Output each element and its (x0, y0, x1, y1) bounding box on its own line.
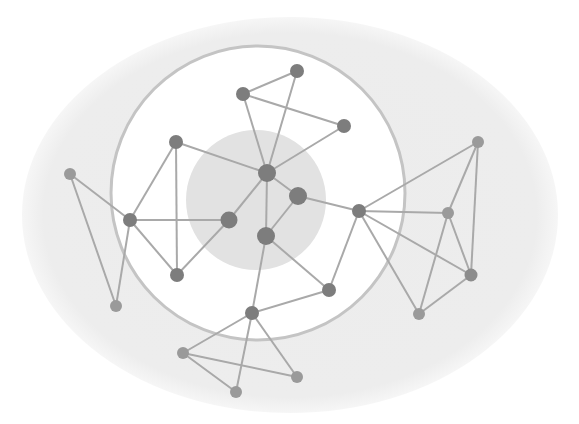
node-r0 (352, 204, 366, 218)
network-graph (0, 0, 579, 424)
node-t2 (236, 87, 250, 101)
node-l3 (170, 268, 184, 282)
network-diagram (0, 0, 579, 424)
node-t1 (290, 64, 304, 78)
node-l2 (123, 213, 137, 227)
node-r4 (413, 308, 425, 320)
node-c2 (289, 187, 307, 205)
node-b1 (322, 283, 336, 297)
node-r1 (472, 136, 484, 148)
edge-c1-c3 (266, 173, 267, 236)
node-c3 (257, 227, 275, 245)
node-b3 (230, 386, 242, 398)
node-r3 (465, 269, 478, 282)
node-l5 (110, 300, 122, 312)
node-c1 (258, 164, 276, 182)
node-l4 (64, 168, 76, 180)
node-l1 (169, 135, 183, 149)
node-b4 (291, 371, 303, 383)
node-t3 (337, 119, 351, 133)
node-c4 (221, 212, 238, 229)
edge-l1-l3 (176, 142, 177, 275)
node-b0 (245, 306, 259, 320)
node-b2 (177, 347, 189, 359)
node-r2 (442, 207, 454, 219)
